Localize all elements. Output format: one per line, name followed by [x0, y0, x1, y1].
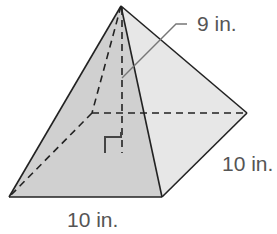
- pyramid-diagram: 9 in. 10 in. 10 in.: [0, 0, 277, 234]
- base-front-label: 10 in.: [67, 208, 118, 231]
- base-side-label: 10 in.: [222, 152, 273, 175]
- height-label: 9 in.: [197, 12, 237, 35]
